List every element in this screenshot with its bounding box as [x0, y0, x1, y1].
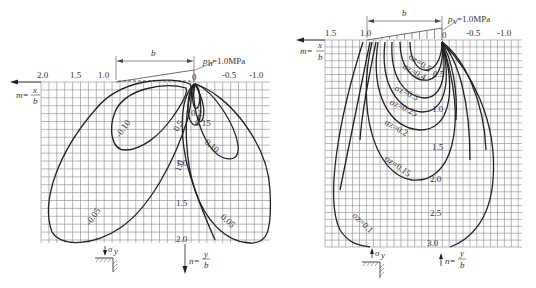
svg-text:m=: m=: [300, 46, 313, 56]
svg-text:b: b: [204, 260, 209, 270]
svg-text:-1.0: -1.0: [497, 28, 512, 38]
svg-text:n=: n=: [445, 256, 456, 266]
stress-contour-diagram: 2.0 1.5 1.0 0 -0.5 -1.0 m= x b b p h =1.…: [0, 0, 536, 288]
svg-text:m=: m=: [16, 90, 29, 100]
left-y-axis: n= y b: [183, 244, 211, 274]
svg-text:y: y: [459, 248, 464, 258]
svg-text:0.15: 0.15: [195, 118, 211, 128]
left-width-dimension: b: [116, 48, 194, 80]
svg-text:y: y: [203, 249, 208, 259]
svg-text:-0.5: -0.5: [466, 28, 481, 38]
svg-text:2.0: 2.0: [37, 70, 49, 80]
svg-text:=1.0MPa: =1.0MPa: [212, 56, 245, 66]
left-x-tick-labels: 2.0 1.5 1.0 0 -0.5 -1.0: [37, 70, 264, 82]
svg-text:0.2: 0.2: [191, 108, 202, 118]
svg-text:σ: σ: [108, 244, 113, 254]
svg-text:1.0: 1.0: [176, 158, 188, 168]
right-load-label: p v =1.0MPa: [447, 14, 490, 26]
svg-text:0: 0: [192, 72, 197, 82]
right-x-tick-labels: 1.5 1.0 0 -0.5 -1.0: [325, 28, 512, 40]
svg-text:=1.0MPa: =1.0MPa: [457, 14, 490, 24]
contour-left-2: [360, 42, 376, 140]
svg-text:1.5: 1.5: [325, 28, 337, 38]
svg-text:0: 0: [442, 30, 447, 40]
svg-text:2.0: 2.0: [176, 234, 188, 244]
svg-text:0.5: 0.5: [433, 69, 445, 79]
right-y-axis: n= y b: [439, 248, 466, 270]
svg-text:0.05: 0.05: [219, 212, 238, 230]
svg-text:1.0: 1.0: [432, 104, 444, 114]
svg-text:b: b: [402, 8, 407, 18]
svg-text:b: b: [460, 260, 465, 270]
svg-text:3.0: 3.0: [427, 238, 439, 248]
left-stress-sign-convention: σ y: [95, 244, 118, 272]
right-x-axis-label: m= x b: [300, 40, 324, 62]
svg-text:2.5: 2.5: [430, 208, 442, 218]
svg-text:y: y: [380, 250, 385, 260]
svg-text:σ: σ: [375, 248, 380, 258]
right-stress-sign-convention: σ y: [362, 248, 385, 278]
svg-text:-0.5: -0.5: [222, 70, 237, 80]
left-x-axis-label: m= x b: [16, 85, 40, 106]
svg-text:b: b: [151, 48, 156, 58]
left-load-triangle: [116, 62, 214, 82]
svg-text:y: y: [113, 246, 118, 256]
svg-text:-1.0: -1.0: [249, 70, 264, 80]
svg-text:1.5: 1.5: [432, 142, 444, 152]
svg-text:b: b: [318, 52, 323, 62]
svg-text:2.0: 2.0: [430, 174, 442, 184]
svg-text:x: x: [317, 40, 322, 50]
left-load-label: p h =1.0MPa: [202, 56, 245, 68]
svg-text:b: b: [33, 96, 38, 106]
left-grid: [41, 82, 270, 243]
svg-text:x: x: [32, 85, 37, 95]
left-x-axis: [10, 80, 41, 85]
svg-text:σz=0.1: σz=0.1: [351, 210, 376, 235]
right-width-dimension: b: [367, 8, 442, 38]
svg-text:-0.10: -0.10: [113, 118, 132, 140]
svg-text:n=: n=: [189, 256, 200, 266]
svg-text:1.0: 1.0: [360, 28, 372, 38]
svg-text:1.0: 1.0: [98, 70, 110, 80]
svg-text:1.5: 1.5: [176, 198, 188, 208]
svg-text:1.5: 1.5: [70, 70, 82, 80]
